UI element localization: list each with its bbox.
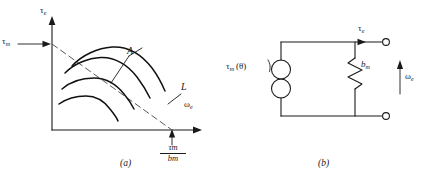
- output-terminal-top: [383, 39, 390, 46]
- output-terminal-bottom: [383, 113, 390, 120]
- load-line-L: [52, 44, 172, 130]
- terminal-current-subscript: e: [362, 28, 365, 34]
- plot-panel-a: [18, 16, 202, 145]
- tau-m-subscript: m: [6, 41, 10, 47]
- source-argument: (θ): [234, 61, 246, 71]
- terminal-current-label-tau-e: τe: [358, 24, 364, 34]
- y-axis-label-subscript: e: [44, 10, 47, 16]
- source-circle-top: [272, 60, 291, 79]
- tau-m-pointer-arrow: [18, 41, 51, 47]
- terminal-voltage-subscript: e: [411, 76, 414, 82]
- source-circle-bottom: [272, 79, 291, 98]
- x-axis-label-omega-e: ωe: [184, 100, 193, 110]
- plot-y-axis: [49, 16, 56, 130]
- terminal-voltage-label-omega-e: ωe: [405, 72, 414, 82]
- figure-root: τe τm A L ωe τm bm (a) τm(θ) bm τe ωe (b…: [0, 0, 422, 181]
- x-intercept-fraction-label: τm bm: [160, 143, 186, 163]
- characteristic-curve-1: [72, 47, 165, 91]
- circuit-panel-b: [268, 39, 403, 120]
- panel-a-caption: (a): [120, 158, 131, 168]
- x-axis-arrowhead: [193, 127, 202, 134]
- y-axis-label-tau-e: τe: [40, 6, 46, 16]
- tau-e-current-arrowhead: [358, 39, 367, 45]
- resistor-zigzag-bm: [348, 58, 362, 89]
- curve-family-label-A: A: [127, 46, 133, 56]
- tau-m-arrowhead: [43, 41, 52, 47]
- x-intercept-numerator: τm: [160, 143, 186, 152]
- omega-e-voltage-arrow: [397, 60, 403, 94]
- source-label-tick: [268, 60, 270, 72]
- panel-b-caption: (b): [318, 158, 329, 168]
- label-L-leader: [168, 94, 181, 104]
- x-axis-label-subscript: e: [190, 104, 193, 110]
- source-label-tau-m-theta: τm(θ): [226, 62, 246, 72]
- characteristic-curve-4: [59, 96, 118, 121]
- y-axis-arrowhead: [49, 16, 56, 25]
- tau-m-pointer-label: τm: [2, 37, 10, 47]
- characteristic-curve-3: [62, 78, 134, 109]
- load-line-label-L: L: [181, 82, 187, 92]
- resistor-subscript: m: [366, 64, 370, 70]
- omega-e-arrowhead: [397, 60, 403, 69]
- resistor-label-bm: bm: [361, 60, 370, 70]
- plot-x-axis: [52, 127, 202, 134]
- characteristic-curve-2: [65, 57, 150, 98]
- x-intercept-denominator: bm: [160, 154, 186, 163]
